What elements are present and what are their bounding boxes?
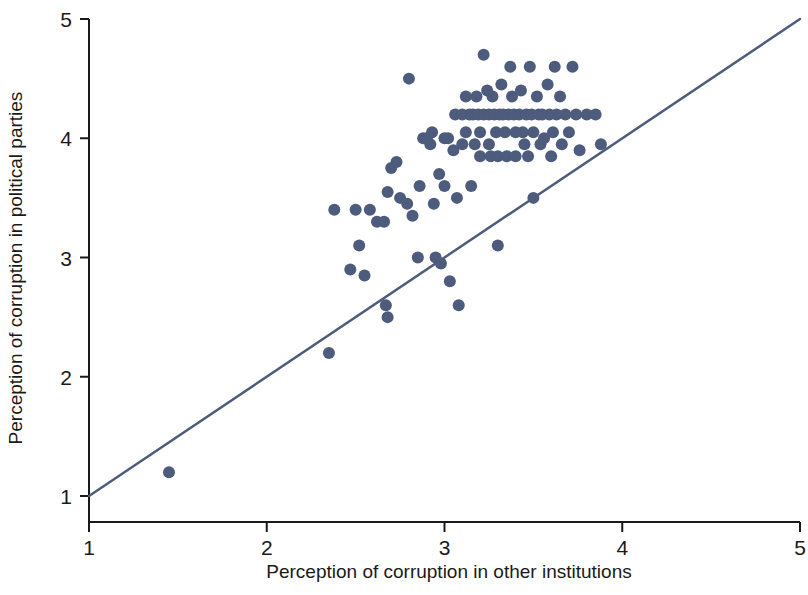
scatter-point [433,168,445,180]
scatter-point [545,150,557,162]
scatter-point [595,138,607,150]
scatter-point [474,126,486,138]
scatter-point [471,91,483,103]
scatter-point [563,126,575,138]
scatter-point [518,138,530,150]
scatter-point [566,61,578,73]
scatter-point [559,108,571,120]
scatter-point [344,263,356,275]
y-tick-label: 5 [60,8,72,31]
scatter-point [442,132,454,144]
scatter-point [424,138,436,150]
scatter-point [401,198,413,210]
scatter-point [353,240,365,252]
scatter-point [542,79,554,91]
x-tick-label: 2 [261,536,273,559]
scatter-point [549,61,561,73]
scatter-point [517,126,529,138]
scatter-point [414,180,426,192]
scatter-point [486,91,498,103]
scatter-point [483,138,495,150]
scatter-point [492,240,504,252]
scatter-point [163,466,175,478]
y-tick-label: 3 [60,247,72,270]
scatter-point [412,252,424,264]
scatter-point [378,216,390,228]
chart-canvas: 12345 12345 Perception of corruption in … [0,0,808,595]
scatter-point [495,79,507,91]
scatter-point [574,144,586,156]
x-tick-label: 5 [794,536,806,559]
x-tick-label: 3 [439,536,451,559]
scatter-point [350,204,362,216]
scatter-point [504,61,516,73]
scatter-point [522,150,534,162]
scatter-point [407,210,419,222]
scatter-point [403,73,415,85]
scatter-point [556,138,568,150]
scatter-point [439,180,451,192]
scatter-point [364,204,376,216]
scatter-point [382,186,394,198]
y-tick-label: 4 [60,127,72,150]
scatter-point [382,311,394,323]
scatter-point [474,150,486,162]
scatter-point [328,204,340,216]
scatter-point [531,91,543,103]
x-tick-label: 1 [83,536,95,559]
scatter-point [456,138,468,150]
scatter-point [465,180,477,192]
scatter-point [426,126,438,138]
scatter-point [515,85,527,97]
scatter-plot-figure: 12345 12345 Perception of corruption in … [0,0,808,595]
scatter-point [499,126,511,138]
scatter-point [590,108,602,120]
y-tick-label: 1 [60,485,72,508]
scatter-point [428,198,440,210]
scatter-point [510,150,522,162]
y-tick-label: 2 [60,366,72,389]
scatter-point [527,126,539,138]
scatter-point [527,192,539,204]
scatter-point [478,49,490,61]
scatter-point [435,257,447,269]
chart-background [0,0,808,595]
x-tick-label: 4 [616,536,628,559]
scatter-point [570,108,582,120]
scatter-point [460,126,472,138]
scatter-point [460,91,472,103]
scatter-point [323,347,335,359]
scatter-point [444,275,456,287]
scatter-point [453,299,465,311]
scatter-point [359,269,371,281]
x-axis-title: Perception of corruption in other instit… [266,561,631,582]
scatter-point [380,299,392,311]
scatter-point [391,156,403,168]
y-axis-title: Perception of corruption in political pa… [5,92,26,445]
scatter-point [554,91,566,103]
scatter-point [451,192,463,204]
scatter-point [547,126,559,138]
scatter-point [524,61,536,73]
scatter-point [469,138,481,150]
